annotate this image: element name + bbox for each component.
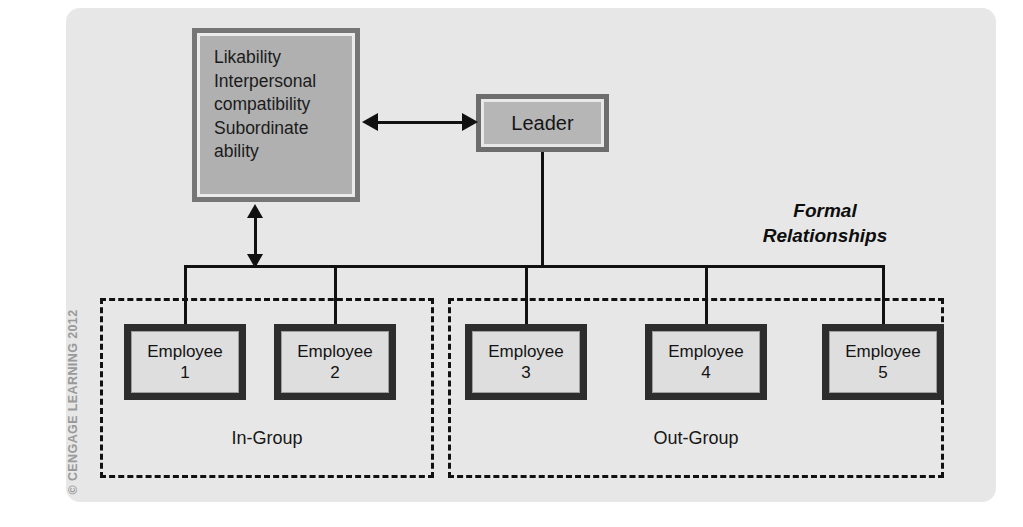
employee-1-number: 1 [180,362,189,383]
employee-2-number: 2 [330,362,339,383]
employee-5-number: 5 [878,362,887,383]
attributes-box: Likability Interpersonal compatibility S… [192,28,360,202]
hierarchy-bus-line [184,265,885,268]
leader-box: Leader [476,94,609,152]
employee-2-name: Employee [297,341,373,362]
employee-box-1: Employee 1 [124,324,246,400]
leader-stem-line [541,152,544,268]
employee-box-4: Employee 4 [645,324,767,400]
attributes-leader-arrowhead-left [362,113,378,131]
formal-relationships-line-2: Relationships [700,223,950,248]
attribute-line-3: compatibility [214,93,310,117]
employee-box-3-inner: Employee 3 [472,331,580,393]
attributes-leader-arrow-shaft [374,121,464,124]
in-group-label: In-Group [100,428,434,449]
employee-box-2: Employee 2 [274,324,396,400]
attributes-ingroup-arrowhead-up [247,204,263,218]
leader-label: Leader [511,112,573,135]
employee-1-name: Employee [147,341,223,362]
formal-relationships-caption: Formal Relationships [700,198,950,248]
employee-box-1-inner: Employee 1 [131,331,239,393]
employee-4-name: Employee [668,341,744,362]
employee-box-5: Employee 5 [822,324,944,400]
attributes-box-inner: Likability Interpersonal compatibility S… [197,33,355,197]
attribute-line-5: ability [214,140,259,164]
employee-3-number: 3 [521,362,530,383]
copyright-credit: © CENGAGE LEARNING 2012 [66,307,80,497]
employee-box-5-inner: Employee 5 [829,331,937,393]
employee-box-3: Employee 3 [465,324,587,400]
employee-5-name: Employee [845,341,921,362]
attribute-line-1: Likability [214,46,281,70]
employee-box-4-inner: Employee 4 [652,331,760,393]
attributes-leader-arrowhead-right [462,113,478,131]
employee-3-name: Employee [488,341,564,362]
figure-canvas: © CENGAGE LEARNING 2012 Likability Inter… [0,0,1023,527]
attribute-line-4: Subordinate [214,117,308,141]
employee-box-2-inner: Employee 2 [281,331,389,393]
formal-relationships-line-1: Formal [700,198,950,223]
attribute-line-2: Interpersonal [214,70,316,94]
employee-4-number: 4 [701,362,710,383]
out-group-label: Out-Group [448,428,944,449]
leader-box-inner: Leader [481,99,604,147]
